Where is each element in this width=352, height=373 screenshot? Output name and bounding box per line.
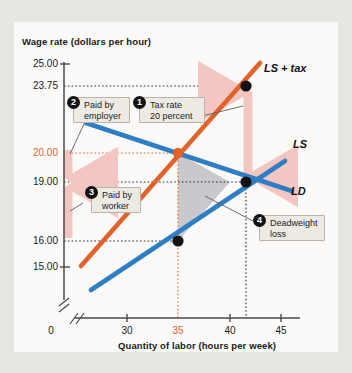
ytick-label-15: 15.00 bbox=[18, 261, 58, 272]
curve-label-ls: LS bbox=[293, 138, 307, 150]
tax-wage-point bbox=[240, 80, 251, 91]
callout-deadweight-loss: Deadweight loss bbox=[259, 215, 325, 241]
ytick-label-25: 25.00 bbox=[18, 58, 58, 69]
badge-3-icon: 3 bbox=[85, 186, 98, 199]
callout-deadweight-loss-line2: loss bbox=[270, 229, 286, 239]
badge-2-icon: 2 bbox=[67, 96, 80, 109]
no-tax-equilibrium-point bbox=[240, 176, 251, 187]
callout-paid-by-employer-line2: employer bbox=[84, 111, 121, 121]
after-tax-equilibrium-point bbox=[173, 148, 183, 158]
y-axis-title: Wage rate (dollars per hour) bbox=[22, 36, 151, 47]
leader-paid-by-employer bbox=[70, 124, 84, 154]
xtick-label-40: 40 bbox=[220, 325, 240, 336]
ytick-label-20: 20.00 bbox=[18, 147, 58, 158]
badge-4-icon: 4 bbox=[253, 214, 266, 227]
ytick-label-19: 19.00 bbox=[18, 176, 58, 187]
callout-paid-by-employer-line1: Paid by bbox=[84, 100, 114, 110]
callout-deadweight-loss-line1: Deadweight bbox=[270, 218, 318, 228]
callout-paid-by-worker: Paid by worker bbox=[91, 187, 141, 213]
xtick-label-0: 0 bbox=[41, 325, 61, 336]
xtick-label-45: 45 bbox=[271, 325, 291, 336]
callout-paid-by-worker-line2: worker bbox=[102, 201, 129, 211]
xtick-label-30: 30 bbox=[117, 325, 137, 336]
badge-1-icon: 1 bbox=[133, 96, 146, 109]
worker-wage-point bbox=[172, 235, 183, 246]
callout-paid-by-worker-line1: Paid by bbox=[102, 190, 132, 200]
chart-figure-page: Wage rate (dollars per hour) Quantity of… bbox=[0, 0, 352, 373]
ytick-label-23-75: 23.75 bbox=[18, 80, 58, 91]
callout-paid-by-employer: Paid by employer bbox=[73, 97, 130, 123]
ytick-label-16: 16.00 bbox=[18, 235, 58, 246]
curve-label-ld: LD bbox=[291, 185, 306, 197]
callout-tax-rate-line1: Tax rate bbox=[150, 100, 182, 110]
xtick-label-35: 35 bbox=[168, 325, 188, 336]
callout-tax-rate-line2: 20 percent bbox=[150, 111, 193, 121]
curve-label-ls-plus-tax: LS + tax bbox=[264, 62, 307, 74]
x-axis-title: Quantity of labor (hours per week) bbox=[118, 340, 276, 351]
callout-tax-rate: Tax rate 20 percent bbox=[139, 97, 205, 123]
